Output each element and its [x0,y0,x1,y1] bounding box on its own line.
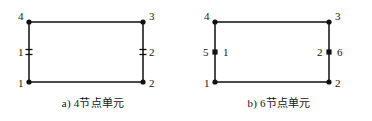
corner-node-bottom-left [26,79,31,84]
node-label-5: 5 [203,47,209,58]
corner-node-top-left [212,19,217,24]
element-diagram-a [0,0,186,95]
node-label-3: 3 [335,11,341,22]
node-label-6: 6 [337,47,343,58]
corner-node-bottom-right [140,79,145,84]
node-label-4: 4 [18,11,24,22]
node-label-2-bottom: 2 [149,78,155,89]
node-label-4: 4 [204,11,210,22]
node-label-1-bottom: 1 [204,78,210,89]
figure-panel-a: 4 3 1 2 1 2 a) 4节点单元 [0,0,186,121]
edge-label-2: 2 [317,47,323,58]
edge-label-2: 2 [149,47,155,58]
panel-caption-b: b) 6节点单元 [186,97,372,110]
figure-panel-b: 4 3 1 2 5 1 2 6 b) 6节点单元 [186,0,372,121]
node-label-1-bottom: 1 [18,78,24,89]
panel-caption-a: a) 4节点单元 [0,97,186,110]
node-label-3: 3 [149,11,155,22]
edge-label-1: 1 [223,47,229,58]
edge-label-1: 1 [18,47,24,58]
corner-node-top-right [326,19,331,24]
element-diagram-b [186,0,372,95]
node-label-2-bottom: 2 [335,78,341,89]
corner-node-bottom-right [326,79,331,84]
corner-node-top-right [140,19,145,24]
midside-node-right [326,49,331,54]
corner-node-bottom-left [212,79,217,84]
corner-node-top-left [26,19,31,24]
midside-node-left [212,49,217,54]
figure-root: 4 3 1 2 1 2 a) 4节点单元 4 3 1 2 5 1 [0,0,372,121]
